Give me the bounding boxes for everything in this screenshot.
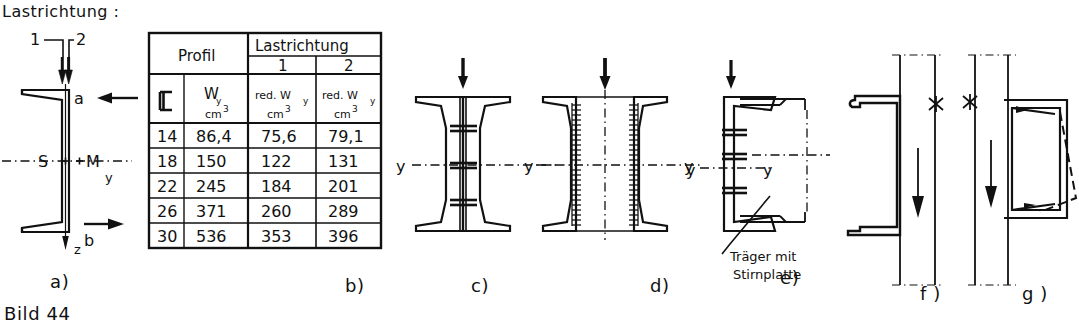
panel-d-label: d) — [650, 275, 670, 296]
cell-wy: 536 — [196, 227, 227, 246]
panel-e-annotation-leader — [722, 196, 770, 254]
panel-a-point-markers — [62, 158, 83, 165]
cell-profil: 14 — [157, 127, 177, 146]
table-header-direction-2: 2 — [344, 57, 354, 75]
cell-profil: 30 — [157, 227, 177, 246]
cell-red-wy-2: 131 — [328, 152, 359, 171]
panel-a-title: Lastrichtung : — [2, 2, 119, 21]
panel-f-label: f ) — [920, 283, 941, 304]
panel-d-left-channel — [543, 97, 576, 231]
table-subheader-red-wy-2-unit: cm — [334, 108, 351, 121]
cell-profil: 26 — [157, 202, 177, 221]
table-subheader-wy-index: y — [216, 96, 222, 106]
panel-a-load-case-1-label: 1 — [30, 30, 41, 49]
table-subheader-wy-unit-exp: 3 — [223, 104, 229, 114]
table-header-direction-1: 1 — [278, 57, 288, 75]
cell-red-wy-2: 79,1 — [328, 127, 364, 146]
figure-caption: Bild 44 — [4, 303, 71, 324]
cell-wy: 150 — [196, 152, 227, 171]
table-header-lastrichtung: Lastrichtung — [255, 37, 349, 55]
panel-a-arrow-b — [84, 219, 124, 230]
panel-g-twist-arrows — [1016, 106, 1036, 208]
panel-e-load-arrow — [726, 60, 736, 89]
panel-d: y d) — [537, 58, 700, 296]
panel-a-centroid-label: M — [86, 152, 100, 171]
cell-profil: 18 — [157, 152, 177, 171]
table-subheader-wy-unit: cm — [205, 108, 222, 121]
panel-g-deformed-shape — [1040, 112, 1076, 212]
panel-f-connection-mark — [929, 96, 943, 112]
panel-a-point-a-label: a — [74, 89, 84, 108]
panel-g-force-arrow — [985, 140, 997, 208]
panel-c-axis-y-right-label: y — [524, 157, 534, 176]
cell-red-wy-1: 122 — [261, 152, 292, 171]
panel-f-channel-bracket — [848, 96, 900, 235]
panel-a-label: a) — [50, 271, 69, 292]
cell-red-wy-1: 260 — [261, 202, 292, 221]
panel-e-axis-y-left-label: y — [686, 161, 696, 180]
table-subheader-red-wy-1-symbol: red. W — [255, 89, 291, 102]
panel-e: y y Träger mit Stirnplatte e) — [686, 60, 830, 288]
cell-wy: 371 — [196, 202, 227, 221]
panel-a-axis-z-label: z — [74, 242, 81, 257]
panel-a-load-case-2-label: 2 — [76, 30, 87, 49]
panel-c-axis-y-left-label: y — [396, 157, 406, 176]
figure-bild-44: Lastrichtung : 1 2 — [0, 0, 1079, 328]
engineering-figure-canvas: Lastrichtung : 1 2 — [0, 0, 1079, 328]
panel-a-axis-y-label: y — [105, 170, 113, 185]
panel-c: y y c) — [396, 58, 560, 296]
cell-wy: 245 — [196, 177, 227, 196]
table-subheader-red-wy-1-unit: cm — [267, 108, 284, 121]
cell-profil: 22 — [157, 177, 177, 196]
table-subheader-red-wy-2-symbol: red. W — [322, 89, 358, 102]
cell-red-wy-1: 184 — [261, 177, 292, 196]
panel-b-label: b) — [345, 275, 365, 296]
panel-f-force-arrow — [912, 148, 924, 218]
cell-red-wy-2: 289 — [328, 202, 359, 221]
panel-e-axis-y-right-label: y — [763, 161, 773, 180]
panel-c-label: c) — [471, 275, 489, 296]
cell-wy: 86,4 — [196, 127, 232, 146]
table-header-profil: Profil — [178, 47, 215, 65]
panel-g-label: g ) — [1022, 283, 1048, 304]
cell-red-wy-1: 75,6 — [261, 127, 297, 146]
panel-a-load-arrows — [59, 57, 73, 84]
table-subheader-red-wy-1-index: y — [303, 96, 309, 106]
panel-e-annotation-line1: Träger mit — [729, 249, 796, 264]
panel-a-shear-center-label: S — [38, 152, 49, 171]
panel-a: Lastrichtung : 1 2 — [2, 2, 138, 292]
panel-b-table: Profil Lastrichtung 1 2 W y cm 3 red. W … — [149, 33, 381, 296]
panel-f: f ) — [848, 55, 944, 304]
cell-red-wy-2: 396 — [328, 227, 359, 246]
cell-red-wy-2: 201 — [328, 177, 359, 196]
panel-d-right-channel — [634, 97, 667, 231]
panel-c-load-arrow — [458, 58, 468, 89]
table-subheader-red-wy-2-index: y — [370, 96, 376, 106]
cell-red-wy-1: 353 — [261, 227, 292, 246]
table-subheader-red-wy-2-unit-exp: 3 — [352, 104, 358, 114]
panel-a-arrow-a — [97, 93, 138, 104]
panel-a-load-bracket — [44, 40, 74, 57]
panel-a-vertical-axis — [62, 84, 69, 250]
panel-a-point-b-label: b — [84, 231, 95, 250]
panel-d-load-arrow — [600, 58, 611, 90]
panel-e-label: e) — [780, 267, 799, 288]
panel-g-channel-bracket — [1004, 100, 1067, 218]
panel-g: g ) — [963, 55, 1076, 304]
table-subheader-red-wy-1-unit-exp: 3 — [285, 104, 291, 114]
